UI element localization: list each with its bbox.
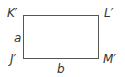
vertex-label-m-prime: M′ xyxy=(103,53,116,65)
side-label-b: b xyxy=(57,63,65,75)
side-label-a: a xyxy=(14,32,21,44)
vertex-label-j-prime: J′ xyxy=(10,53,16,65)
rectangle-shape xyxy=(23,15,99,59)
vertex-label-l-prime: L′ xyxy=(104,7,113,19)
vertex-label-k-prime: K′ xyxy=(7,7,18,19)
